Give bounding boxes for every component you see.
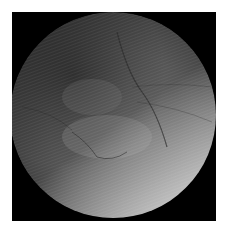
fundus-image-frame — [12, 12, 216, 221]
fundus-image — [12, 12, 216, 221]
